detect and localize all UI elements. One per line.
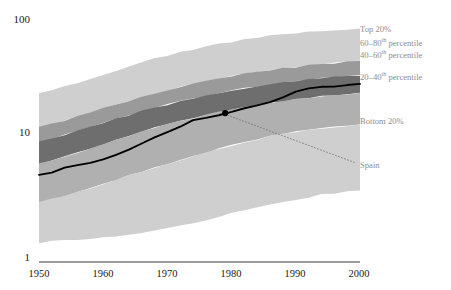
legend-label-60-80-percentile: 60–80th percentile — [360, 38, 422, 48]
legend-label-20-40-percentile: 20–40th percentile — [360, 72, 422, 82]
legend-20-40-suffix: percentile — [386, 72, 422, 82]
x-tick-label-1980: 1980 — [211, 268, 251, 279]
x-tick-label-1950: 1950 — [19, 268, 59, 279]
legend-60-80-suffix: percentile — [386, 38, 422, 48]
x-tick-label-2000: 2000 — [339, 268, 379, 279]
x-tick-label-1990: 1990 — [275, 268, 315, 279]
legend-label-top-20: Top 20% — [360, 24, 391, 34]
percentile-bands-group — [39, 28, 360, 243]
legend-40-60-prefix: 40–60 — [360, 50, 381, 60]
y-tick-label-1: 1 — [4, 252, 30, 263]
legend-60-80-prefix: 60–80 — [360, 38, 381, 48]
x-tick-label-1960: 1960 — [83, 268, 123, 279]
legend-label-40-60-percentile: 40–60th percentile — [360, 50, 422, 60]
annotation-label-spain: Spain — [360, 160, 380, 170]
x-tick-label-1970: 1970 — [147, 268, 187, 279]
y-tick-label-10: 10 — [4, 127, 30, 138]
legend-20-40-prefix: 20–40 — [360, 72, 381, 82]
legend-40-60-suffix: percentile — [386, 50, 422, 60]
legend-label-bottom-20: Bottom 20% — [360, 116, 404, 126]
y-tick-label-100: 100 — [4, 14, 30, 25]
chart-container: 100 10 1 1950 1960 1970 1980 1990 2000 T… — [0, 0, 451, 290]
